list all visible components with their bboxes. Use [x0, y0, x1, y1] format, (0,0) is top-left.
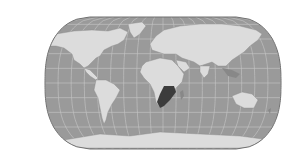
world-map-svg — [0, 0, 299, 155]
world-map — [0, 0, 299, 155]
